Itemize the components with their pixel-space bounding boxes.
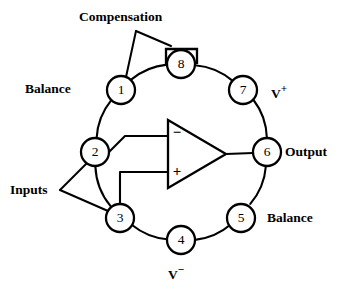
leader-compensation-to-pin8 — [136, 31, 171, 46]
pin-7-number: 7 — [240, 82, 247, 97]
ring-arc-8-7 — [195, 65, 233, 81]
wire-pin2-to-inverting-input — [109, 136, 168, 152]
wire-output-to-pin6 — [226, 153, 253, 154]
ring-arc-4-3 — [132, 225, 167, 239]
ring-arc-5-4 — [195, 224, 231, 240]
v-minus-base: V — [168, 267, 178, 282]
pin-6-number: 6 — [264, 144, 271, 159]
ring-arc-7-6 — [253, 100, 267, 139]
pin-5[interactable]: 5 — [227, 204, 255, 232]
pin-8-number: 8 — [178, 56, 185, 71]
pin-7[interactable]: 7 — [229, 76, 257, 104]
pin-4-number: 4 — [178, 232, 185, 247]
leader-inputs-to-pin3 — [60, 190, 108, 211]
label-inputs: Inputs — [10, 183, 48, 197]
leader-inputs-to-pin2 — [60, 164, 86, 190]
pin-3[interactable]: 3 — [106, 204, 134, 232]
ring-arc-6-5 — [250, 166, 266, 204]
label-v-minus: V− — [168, 264, 184, 281]
pin-1-number: 1 — [118, 82, 125, 97]
opamp-symbol: − + — [168, 120, 226, 188]
pin-2[interactable]: 2 — [81, 138, 109, 166]
noninverting-input-sign: + — [173, 163, 182, 179]
label-v-plus: V+ — [271, 83, 287, 100]
label-output: Output — [285, 145, 327, 159]
label-balance-pin5: Balance — [267, 211, 313, 225]
pin-1[interactable]: 1 — [107, 76, 135, 104]
ring-arc-3-2 — [95, 167, 110, 206]
leader-lines — [60, 31, 171, 211]
pin-3-number: 3 — [117, 210, 124, 225]
ring-arc-1-8 — [131, 65, 167, 80]
leader-compensation-to-pin1 — [126, 31, 136, 77]
wire-pin3-to-noninverting-input — [120, 172, 168, 204]
pin-4[interactable]: 4 — [167, 226, 195, 254]
v-plus-superscript: + — [281, 82, 287, 94]
pinout-diagram: − + 1 2 3 4 — [0, 0, 348, 291]
pin-5-number: 5 — [238, 210, 245, 225]
v-plus-base: V — [271, 86, 281, 101]
pin-8[interactable]: 8 — [167, 50, 195, 78]
label-balance-pin1: Balance — [25, 82, 71, 96]
pin-2-number: 2 — [92, 144, 99, 159]
label-compensation: Compensation — [79, 10, 162, 24]
ring-arc-2-1 — [97, 100, 112, 138]
v-minus-superscript: − — [178, 263, 184, 275]
pin-6[interactable]: 6 — [253, 138, 281, 166]
inverting-input-sign: − — [173, 124, 182, 140]
